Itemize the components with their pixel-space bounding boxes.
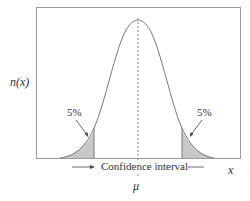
right-tail-arrowhead [190,132,194,137]
left-tail-label: 5% [67,107,82,118]
left-tail-arrowhead [85,132,89,137]
mean-label: μ [133,180,139,192]
right-tail-shade [182,131,214,158]
confidence-interval-label: Confidence interval [101,161,188,172]
x-axis-label: x [228,164,233,176]
normal-curve [60,20,214,158]
y-axis-label: n(x) [10,76,29,88]
left-tail-shade [60,131,94,158]
interval-left-arrowhead [90,165,95,169]
right-tail-label: 5% [197,107,212,118]
